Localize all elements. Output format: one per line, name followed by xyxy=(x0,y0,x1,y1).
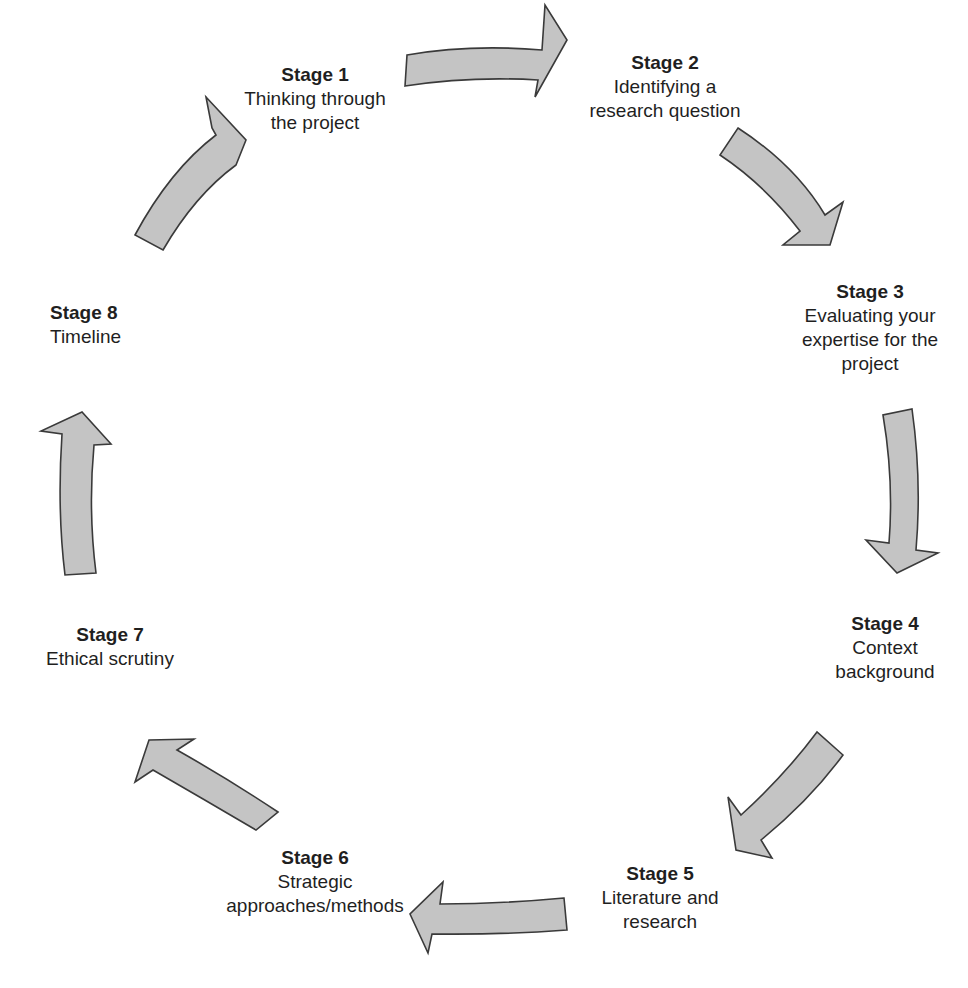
stage-1-description: Thinking through the project xyxy=(220,87,410,135)
stage-7-description: Ethical scrutiny xyxy=(20,647,200,671)
stage-1: Stage 1 Thinking through the project xyxy=(220,63,410,135)
stage-4-title: Stage 4 xyxy=(810,612,960,636)
stage-7-title: Stage 7 xyxy=(20,623,200,647)
stage-6-title: Stage 6 xyxy=(215,846,415,870)
stage-2-description: Identifying a research question xyxy=(565,75,765,123)
stage-3-description: Evaluating your expertise for the projec… xyxy=(775,304,965,376)
stage-2-title: Stage 2 xyxy=(565,51,765,75)
cycle-arrows xyxy=(0,0,968,988)
stage-5: Stage 5 Literature and research xyxy=(580,862,740,934)
stage-7: Stage 7 Ethical scrutiny xyxy=(20,623,200,671)
stage-8-description: Timeline xyxy=(50,325,170,349)
stage-2: Stage 2 Identifying a research question xyxy=(565,51,765,123)
arrow-stage4-to-stage5 xyxy=(728,732,843,858)
arrow-stage7-to-stage8 xyxy=(41,412,111,575)
stage-4-description: Context background xyxy=(810,636,960,684)
stage-5-description: Literature and research xyxy=(580,886,740,934)
stage-3-title: Stage 3 xyxy=(775,280,965,304)
arrow-stage1-to-stage2 xyxy=(405,5,567,97)
stage-5-title: Stage 5 xyxy=(580,862,740,886)
arrow-stage6-to-stage7 xyxy=(135,739,278,830)
stage-1-title: Stage 1 xyxy=(220,63,410,87)
stage-8: Stage 8 Timeline xyxy=(50,301,170,349)
stage-3: Stage 3 Evaluating your expertise for th… xyxy=(775,280,965,376)
stage-6: Stage 6 Strategic approaches/methods xyxy=(215,846,415,918)
arrow-stage5-to-stage6 xyxy=(410,882,567,953)
stage-6-description: Strategic approaches/methods xyxy=(215,870,415,918)
stage-4: Stage 4 Context background xyxy=(810,612,960,684)
arrow-stage3-to-stage4 xyxy=(866,409,938,573)
stage-8-title: Stage 8 xyxy=(50,301,170,325)
arrow-stage2-to-stage3 xyxy=(720,128,843,245)
